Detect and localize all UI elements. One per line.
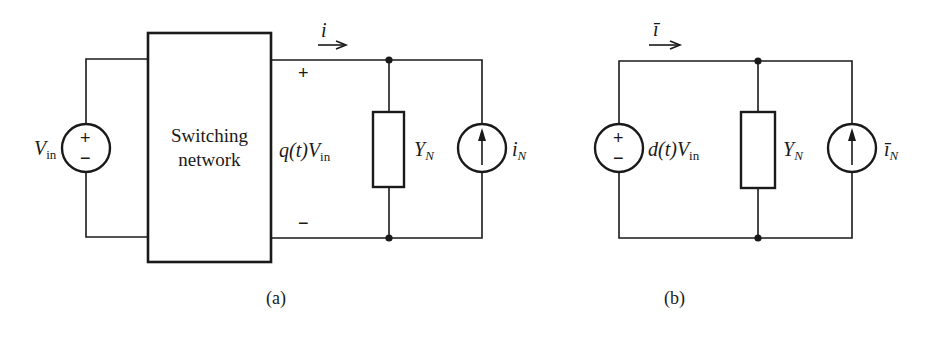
current-i-label: i	[321, 20, 327, 40]
in-label-a: iN	[512, 139, 526, 162]
node-dot-b-bottom	[754, 234, 761, 241]
node-dot-a-bottom	[385, 234, 392, 241]
yn-label-a: YN	[414, 139, 434, 162]
output-plus-sign: +	[298, 64, 309, 82]
caption-b: (b)	[664, 289, 685, 307]
loop-wire-top	[619, 61, 852, 124]
node-dot-b-top	[754, 57, 761, 64]
dvin-minus-sign: −	[613, 149, 624, 167]
current-source-arrowhead	[478, 128, 486, 141]
output-voltage-label: q(t)Vin	[279, 140, 330, 163]
vin-minus-sign: −	[80, 149, 91, 167]
yn-admittance-b	[741, 112, 775, 188]
caption-a: (a)	[266, 289, 286, 307]
vin-plus-sign: +	[80, 129, 91, 147]
dvin-plus-sign: +	[613, 129, 624, 147]
node-dot-a-top	[385, 56, 392, 63]
switching-network-label: Switching network	[148, 124, 271, 172]
yn-label-b: YN	[783, 139, 803, 162]
circuit-diagrams	[0, 0, 932, 345]
panel-b-circuit	[595, 41, 876, 238]
vin-label: Vin	[34, 138, 56, 161]
input-wire-top	[86, 59, 148, 124]
current-source-arrowhead-b	[848, 128, 856, 141]
dvin-label: d(t)Vin	[648, 139, 699, 162]
current-ibar-label: ī	[653, 19, 659, 39]
input-wire-bottom	[86, 172, 148, 237]
output-minus-sign: −	[298, 214, 309, 232]
loop-wire-bottom	[619, 172, 852, 238]
yn-admittance	[373, 112, 404, 187]
in-bar-label-b: īN	[884, 139, 898, 162]
